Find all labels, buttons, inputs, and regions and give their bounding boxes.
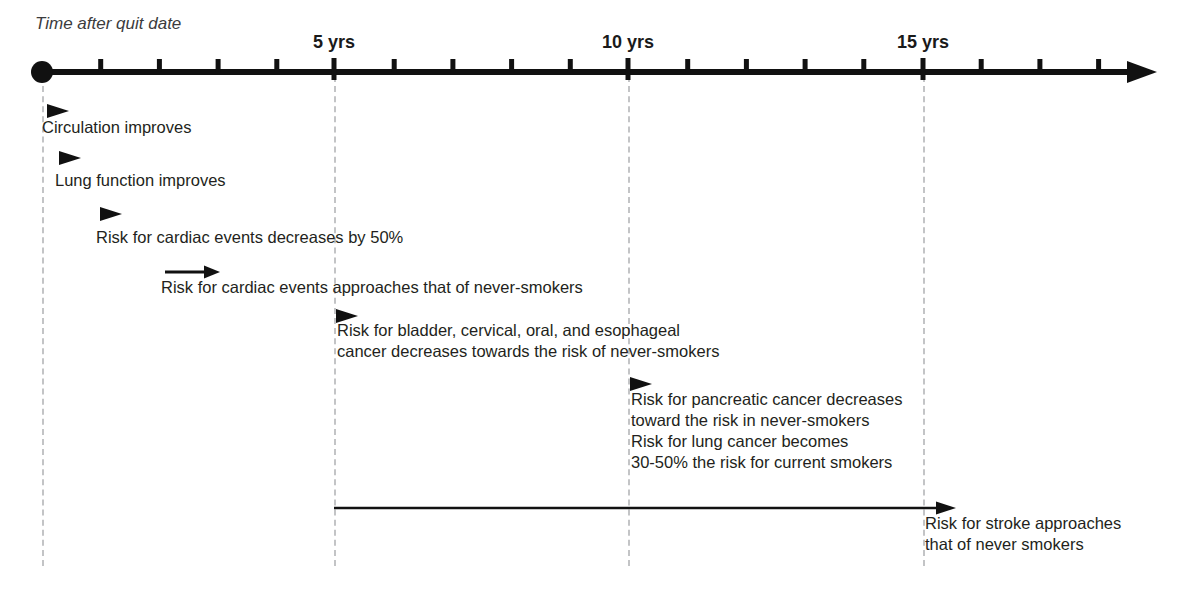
triangle-icon: [100, 203, 124, 225]
event-label-cardiac-50-percent: Risk for cardiac events decreases by 50%: [96, 227, 403, 248]
event-label-cardiac-never-smokers: Risk for cardiac events approaches that …: [161, 277, 583, 298]
event-text: Risk for pancreatic cancer decreases tow…: [631, 389, 902, 473]
event-label-lung-function: Lung function improves: [55, 170, 226, 191]
long-arrow-icon: [334, 497, 956, 519]
gridline-quit-date: [42, 76, 44, 566]
event-text: Risk for bladder, cervical, oral, and es…: [337, 320, 719, 362]
event-text: Risk for stroke approaches that of never…: [925, 513, 1121, 555]
event-text: Risk for cardiac events decreases by 50%: [96, 227, 403, 248]
event-label-stroke: Risk for stroke approaches that of never…: [925, 513, 1121, 555]
triangle-icon: [59, 147, 83, 169]
event-marker-lung-function: [59, 147, 83, 169]
axis-tick-label: 15 yrs: [897, 32, 949, 53]
axis-arrowhead: [1127, 61, 1157, 83]
event-label-pancreatic-and-lung: Risk for pancreatic cancer decreases tow…: [631, 389, 902, 473]
axis-tick-label: 5 yrs: [313, 32, 355, 53]
axis-tick-label: 10 yrs: [602, 32, 654, 53]
event-marker-cardiac-50-percent: [100, 203, 124, 225]
timeline-diagram: Time after quit date 5 yrs10 yrs15 yrs C…: [0, 0, 1193, 603]
event-text: Lung function improves: [55, 170, 226, 191]
event-text: Risk for cardiac events approaches that …: [161, 277, 583, 298]
event-text: Circulation improves: [42, 117, 191, 138]
origin-dot: [31, 61, 53, 83]
timeline-axis: [0, 0, 1193, 110]
event-label-bladder-cervical-oral-esophageal: Risk for bladder, cervical, oral, and es…: [337, 320, 719, 362]
event-label-circulation: Circulation improves: [42, 117, 191, 138]
event-marker-stroke: [334, 497, 956, 519]
gridline-15-yrs: [923, 76, 925, 566]
